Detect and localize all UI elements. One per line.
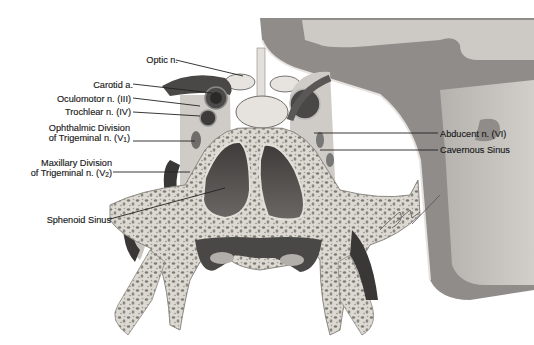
- label-ophthalmic-division-1: Ophthalmic Division: [41, 123, 130, 133]
- label-carotid-a: Carotid a.: [88, 80, 133, 90]
- label-maxillary-division-1: Maxillary Division: [34, 158, 112, 168]
- label-cavernous-sinus: Cavernous Sinus: [440, 145, 520, 155]
- label-abducent-n: Abducent n. (VI): [440, 129, 520, 139]
- label-maxillary-division-2: of Trigeminal n. (V2): [23, 168, 112, 180]
- label-trochlear-n: Trochlear n. (IV): [55, 107, 131, 117]
- label-oculomotor-n: Oculomotor n. (III): [49, 94, 131, 104]
- label-sphenoid-sinus: Sphenoid Sinus: [39, 215, 111, 225]
- label-optic-n: Optic n.: [134, 55, 178, 65]
- label-ophthalmic-division-2: of Trigeminal n. (V1): [40, 133, 130, 145]
- pterygoid-plate-left: [115, 250, 165, 335]
- leader-line-optic-n: [176, 60, 243, 76]
